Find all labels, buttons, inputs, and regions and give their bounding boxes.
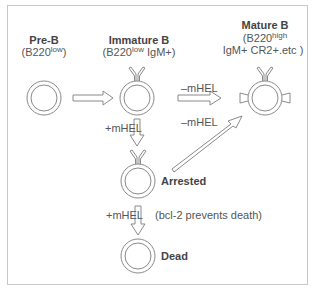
immature-b-marker-sup: low (132, 45, 144, 54)
arrested-cell-icon (121, 150, 155, 198)
immature-b-marker: (B220low IgM+) (103, 46, 176, 58)
arrested-title: Arrested (161, 175, 206, 187)
edge-label-immature-to-arrested: +mHEL (105, 122, 142, 134)
edge-note-bcl2: (bcl-2 prevents death) (155, 209, 262, 221)
pre-b-marker-sup: low (51, 45, 63, 54)
mature-b-marker-sup: high (272, 31, 287, 40)
immature-b-marker-suffix: IgM+) (144, 46, 175, 58)
mature-b-cell-icon (240, 67, 290, 115)
immature-b-marker-text: (B220 (103, 46, 132, 58)
mature-b-marker-text: (B220 (243, 32, 272, 44)
mature-b-marker-line2: IgM+ CR2+.etc ) (223, 44, 304, 56)
arrow-preb-to-immature (73, 91, 113, 105)
pre-b-marker-suffix: ) (63, 46, 67, 58)
pre-b-cell-icon (27, 81, 61, 115)
pre-b-marker-text: (B220 (21, 46, 50, 58)
edge-label-arrested-to-dead: +mHEL (106, 209, 143, 221)
dead-cell-icon (121, 239, 155, 273)
edge-label-immature-to-mature: –mHEL (181, 82, 218, 94)
edge-label-arrested-to-mature: –mHEL (181, 116, 218, 128)
dead-title: Dead (161, 250, 188, 262)
mature-b-title: Mature B (241, 19, 288, 31)
mature-b-marker-line1: (B220high (243, 32, 287, 44)
pre-b-marker: (B220low) (21, 46, 66, 58)
immature-b-cell-icon (120, 67, 154, 115)
